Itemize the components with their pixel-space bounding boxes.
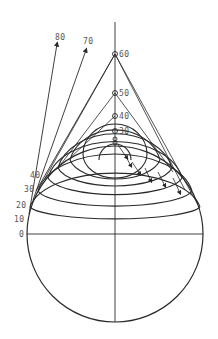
label-50: 50 <box>119 89 130 98</box>
rays <box>29 44 115 214</box>
ray-label-70: 70 <box>83 37 94 46</box>
sphere-projection-diagram: 60 50 40 30 40 30 20 10 0 80 70 <box>0 0 218 339</box>
label-30: 30 <box>119 127 130 136</box>
label-40: 40 <box>119 112 130 121</box>
edge-label-10: 10 <box>14 215 25 224</box>
edge-label-40: 40 <box>30 171 41 180</box>
label-60: 60 <box>119 50 130 59</box>
edge-label-30: 30 <box>24 185 35 194</box>
edge-label-20: 20 <box>16 201 27 210</box>
ray-label-80: 80 <box>55 33 66 42</box>
edge-label-0: 0 <box>19 230 24 239</box>
